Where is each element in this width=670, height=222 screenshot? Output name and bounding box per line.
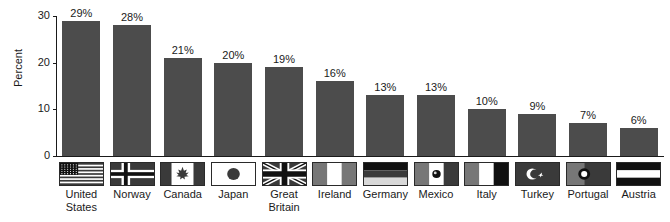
category-label-line1: Mexico (407, 188, 465, 201)
flag-japan-icon (211, 162, 256, 186)
bar-value-label: 20% (208, 49, 258, 61)
category-label: Germany (356, 188, 414, 201)
category-label-line1: Japan (204, 188, 262, 201)
category-label-line1: Italy (458, 188, 516, 201)
bar-group: 13% (366, 16, 404, 156)
plot-area: 29%28%21%20%19%16%13%13%10%9%7%6% (56, 16, 664, 156)
flag-united-states-icon (59, 162, 104, 186)
bar-group: 28% (113, 16, 151, 156)
y-tick-label: 30 (24, 10, 50, 21)
category-label-line1: Ireland (306, 188, 364, 201)
bar (214, 63, 252, 156)
category-label-line1: Canada (154, 188, 212, 201)
category-label: UnitedStates (52, 188, 110, 214)
flag-turkey-icon (515, 162, 560, 186)
category-label-line2: Britain (255, 201, 313, 214)
bar (417, 95, 455, 156)
bar-value-label: 16% (310, 67, 360, 79)
category-label: Japan (204, 188, 262, 201)
category-label: Norway (103, 188, 161, 201)
bar-group: 10% (468, 16, 506, 156)
flag-great-britain-icon (262, 162, 307, 186)
bar (316, 81, 354, 156)
bar (620, 128, 658, 156)
bar-chart: Percent 3020100 29%28%21%20%19%16%13%13%… (0, 0, 670, 222)
category-label: Austria (610, 188, 668, 201)
category-label-line1: Austria (610, 188, 668, 201)
category-label: Mexico (407, 188, 465, 201)
y-tick-label: 20 (24, 57, 50, 68)
category-label-line1: Norway (103, 188, 161, 201)
flag-norway-icon (110, 162, 155, 186)
category-label: Canada (154, 188, 212, 201)
bar-value-label: 7% (563, 109, 613, 121)
category-label-line1: United (52, 188, 110, 201)
category-label-line1: Turkey (508, 188, 566, 201)
flags-row (56, 162, 664, 186)
bar-value-label: 10% (462, 95, 512, 107)
bar-value-label: 13% (411, 81, 461, 93)
bar-group: 21% (164, 16, 202, 156)
bar-value-label: 6% (614, 114, 664, 126)
category-labels-row: UnitedStatesNorwayCanadaJapanGreatBritai… (56, 188, 664, 218)
category-label-line2: States (52, 201, 110, 214)
x-axis-line (56, 156, 664, 157)
bar-group: 13% (417, 16, 455, 156)
flag-germany-icon (363, 162, 408, 186)
bar-value-label: 28% (107, 11, 157, 23)
category-label: GreatBritain (255, 188, 313, 214)
bar-value-label: 21% (158, 44, 208, 56)
bar-value-label: 9% (512, 100, 562, 112)
bar-group: 16% (316, 16, 354, 156)
y-tick-label: 0 (24, 150, 50, 161)
bar (468, 109, 506, 156)
bar-group: 9% (518, 16, 556, 156)
flag-canada-icon (160, 162, 205, 186)
bar (113, 25, 151, 156)
bar (265, 67, 303, 156)
flag-portugal-icon (566, 162, 611, 186)
category-label: Turkey (508, 188, 566, 201)
bar (366, 95, 404, 156)
bar-group: 29% (62, 16, 100, 156)
bar (518, 114, 556, 156)
flag-ireland-icon (312, 162, 357, 186)
bar-group: 20% (214, 16, 252, 156)
category-label-line1: Portugal (559, 188, 617, 201)
bar (164, 58, 202, 156)
category-label: Ireland (306, 188, 364, 201)
bar-group: 19% (265, 16, 303, 156)
category-label: Italy (458, 188, 516, 201)
bar-group: 7% (569, 16, 607, 156)
bar (569, 123, 607, 156)
flag-austria-icon (616, 162, 661, 186)
category-label-line1: Germany (356, 188, 414, 201)
category-label: Portugal (559, 188, 617, 201)
flag-mexico-icon (414, 162, 459, 186)
flag-italy-icon (464, 162, 509, 186)
bar-value-label: 13% (360, 81, 410, 93)
y-tick-label: 10 (24, 103, 50, 114)
bar-group: 6% (620, 16, 658, 156)
y-axis-title: Percent (12, 28, 24, 108)
category-label-line1: Great (255, 188, 313, 201)
bar (62, 21, 100, 156)
bar-value-label: 29% (56, 7, 106, 19)
bar-value-label: 19% (259, 53, 309, 65)
